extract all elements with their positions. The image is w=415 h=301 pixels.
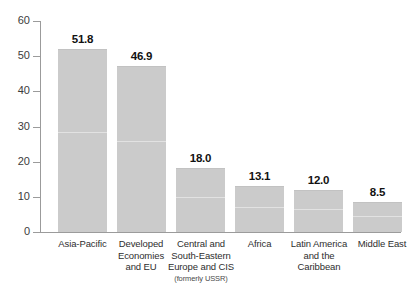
- bar-value-label: 51.8: [58, 34, 107, 46]
- category-label-latin-america-and-the-caribbean: Latin America and the Caribbean: [283, 238, 355, 273]
- bar-africa[interactable]: [235, 186, 284, 232]
- category-label-line2: and the: [304, 250, 335, 261]
- bar-middle-east[interactable]: [353, 202, 402, 232]
- bar-value-label: 12.0: [294, 175, 343, 187]
- bar-chart: 60 50 40 30 20 10 0 51.8 46.9 18.0 13.1 …: [0, 0, 415, 301]
- bar-value-label: 46.9: [117, 51, 166, 63]
- bar-asia-pacific[interactable]: [58, 49, 107, 232]
- category-label-line1: Developed: [119, 238, 164, 249]
- bar-central-and-south-eastern-europe-and-cis[interactable]: [176, 168, 225, 232]
- bar-value-label: 13.1: [235, 171, 284, 183]
- category-label-line1: Central and: [177, 238, 225, 249]
- category-label-line2: South-Eastern: [171, 250, 230, 261]
- bar-value-label: 18.0: [176, 153, 225, 165]
- category-label-line3: and EU: [125, 261, 156, 272]
- category-label-line1: Latin America: [291, 238, 347, 249]
- category-label-annotation: (formerly USSR): [158, 274, 244, 284]
- bar-developed-economies-and-eu[interactable]: [117, 66, 166, 232]
- category-label-line1: Asia-Pacific: [58, 238, 106, 249]
- category-label-middle-east: Middle East: [350, 238, 414, 250]
- bar-latin-america-and-the-caribbean[interactable]: [294, 190, 343, 232]
- category-label-line3: Europe and CIS: [168, 261, 234, 272]
- bar-value-label: 8.5: [353, 187, 402, 199]
- category-label-line1: Middle East: [358, 238, 407, 249]
- category-label-line3: Caribbean: [298, 261, 341, 272]
- category-label-line1: Africa: [248, 238, 272, 249]
